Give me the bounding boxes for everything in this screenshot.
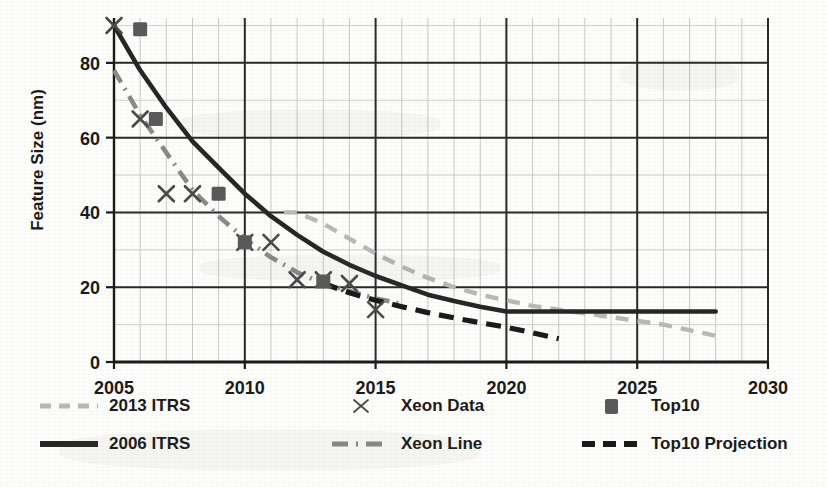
legend-label-itrs2006: 2006 ITRS <box>109 434 190 454</box>
legend-swatch-xeon-data <box>330 398 392 414</box>
plot-svg: 020406080200520102015202020252030 <box>0 0 827 400</box>
legend-label-xeon-line: Xeon Line <box>401 434 482 454</box>
legend-dashed-black-swatch <box>580 436 642 452</box>
series-line-2006-itrs <box>114 26 716 312</box>
y-tick-label: 60 <box>80 129 100 149</box>
legend-label-itrs2013: 2013 ITRS <box>109 396 190 416</box>
legend-item-top10-projection[interactable]: Top10 Projection <box>580 434 788 454</box>
legend-swatch-top10 <box>580 398 642 414</box>
series-layer <box>114 26 716 339</box>
legend-label-xeon-data: Xeon Data <box>401 396 484 416</box>
legend-item-itrs2013[interactable]: 2013 ITRS <box>38 396 190 416</box>
legend-item-xeon-line[interactable]: Xeon Line <box>330 434 482 454</box>
y-tick-label: 80 <box>80 54 100 74</box>
legend-label-top10: Top10 <box>651 396 700 416</box>
tick-labels: 020406080200520102015202020252030 <box>80 54 788 398</box>
legend-item-top10[interactable]: Top10 <box>580 396 700 416</box>
top10-marker <box>133 22 147 36</box>
legend-dash-dot-swatch <box>330 436 392 452</box>
legend-item-xeon-data[interactable]: Xeon Data <box>330 396 484 416</box>
chart-page: 020406080200520102015202020252030 Featur… <box>0 0 827 487</box>
y-tick-label: 40 <box>80 203 100 223</box>
axis-lines <box>106 18 768 369</box>
y-axis-label-wrap: Feature Size (nm) <box>0 0 60 380</box>
y-tick-label: 20 <box>80 278 100 298</box>
y-axis-label: Feature Size (nm) <box>28 30 48 290</box>
legend-dashed-light-swatch <box>38 398 100 414</box>
legend-solid-black-swatch <box>38 436 100 452</box>
top10-marker <box>212 187 226 201</box>
legend-swatch-top10-projection <box>580 436 642 452</box>
chart-legend: 2013 ITRSXeon DataTop102006 ITRSXeon Lin… <box>0 392 827 487</box>
legend-x-marker-swatch <box>330 398 392 414</box>
top10-marker <box>316 275 330 289</box>
legend-item-itrs2006[interactable]: 2006 ITRS <box>38 434 190 454</box>
top10-marker <box>149 112 163 126</box>
legend-swatch-xeon-line <box>330 436 392 452</box>
legend-label-top10-projection: Top10 Projection <box>651 434 788 454</box>
series-line-2013-itrs <box>284 212 716 335</box>
legend-square-marker-swatch <box>580 398 642 414</box>
legend-swatch-itrs2006 <box>38 436 100 452</box>
top10-marker <box>238 235 252 249</box>
y-tick-label: 0 <box>90 353 100 373</box>
legend-swatch-itrs2013 <box>38 398 100 414</box>
